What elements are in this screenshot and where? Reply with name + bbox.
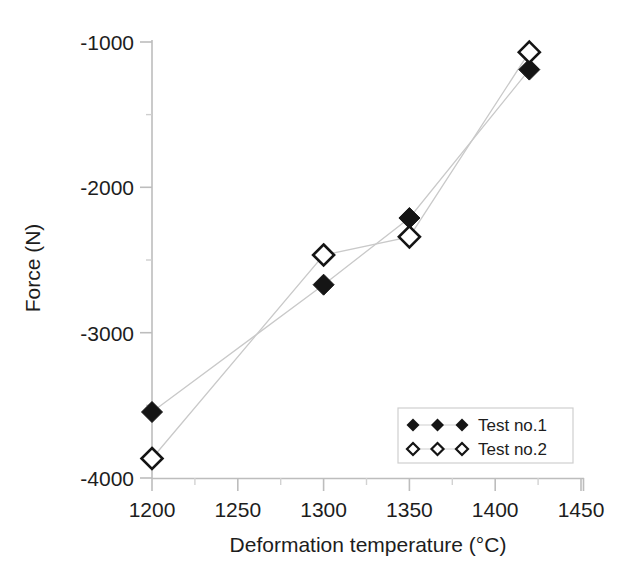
x-tick-label-1300: 1300 — [300, 498, 347, 521]
y-tick-label-3000: -3000 — [80, 322, 134, 345]
x-tick-label-1350: 1350 — [386, 498, 433, 521]
chart-legend[interactable]: Test no.1 Test no.2 — [398, 408, 573, 463]
x-tick-label-1400: 1400 — [472, 498, 519, 521]
y-axis-title: Force (N) — [21, 224, 44, 313]
x-tick-label-1450: 1450 — [558, 498, 605, 521]
legend-label-test-no-1: Test no.1 — [478, 416, 547, 435]
x-tick-label-1250: 1250 — [214, 498, 261, 521]
force-vs-temperature-chart: -1000 -2000 -3000 -4000 1200 1250 1300 1… — [0, 0, 626, 585]
y-tick-label-4000: -4000 — [80, 467, 134, 490]
y-tick-label-1000: -1000 — [80, 31, 134, 54]
y-tick-label-2000: -2000 — [80, 176, 134, 199]
x-axis-title: Deformation temperature (°C) — [230, 533, 507, 556]
chart-container: -1000 -2000 -3000 -4000 1200 1250 1300 1… — [0, 0, 626, 585]
legend-label-test-no-2: Test no.2 — [478, 440, 547, 459]
x-tick-label-1200: 1200 — [129, 498, 176, 521]
